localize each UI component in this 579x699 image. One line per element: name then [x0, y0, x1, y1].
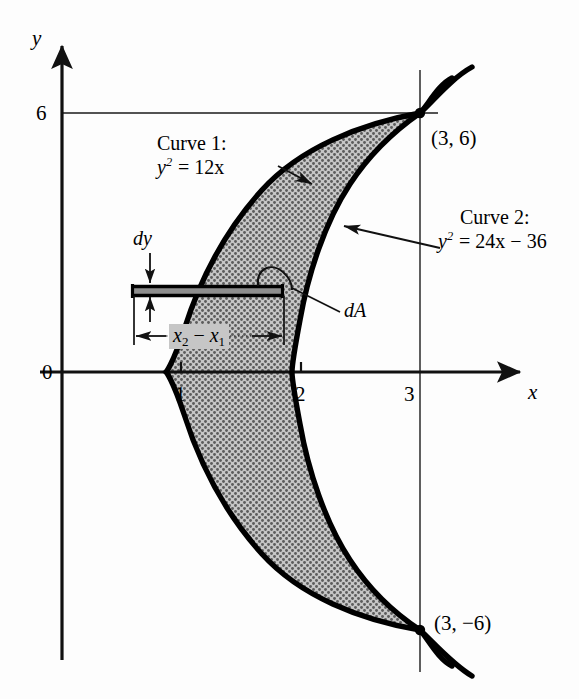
curve-2-eq-rhs: = 24x − 36: [453, 230, 547, 252]
width-label-x1-sub: 1: [219, 334, 226, 349]
curve-2-equation: y2= 24x − 36: [438, 230, 547, 251]
curve-1-equation: y2= 12x: [157, 156, 226, 177]
figure-canvas: y x 6 0 1 2 3 (3, 6) (3, −6) Curve 1: y2…: [0, 0, 579, 699]
width-label-x2-base: x: [173, 324, 182, 346]
curve-2-label-arrow: [344, 226, 440, 248]
y-tick-label-6: 6: [36, 103, 47, 124]
curve-2-label: Curve 2: y2= 24x − 36: [438, 207, 547, 251]
diagram-svg: [0, 0, 579, 699]
intersection-point-bottom: [415, 625, 425, 635]
x-axis-label: x: [528, 382, 537, 403]
intersection-point-top: [415, 108, 425, 118]
dy-label: dy: [133, 228, 152, 248]
curve-1-eq-lhs: y: [157, 156, 166, 178]
x-tick-label-3: 3: [404, 384, 415, 405]
curve-2-name: Curve 2:: [460, 207, 529, 227]
x-tick-label-2: 2: [295, 384, 306, 405]
curve-1-label: Curve 1: y2= 12x: [157, 133, 226, 177]
width-label-x1-base: x: [210, 324, 219, 346]
y-axis-label: y: [32, 28, 41, 49]
origin-label: 0: [42, 362, 53, 383]
curve-1-eq-rhs: = 12x: [172, 156, 224, 178]
intersection-label-top: (3, 6): [431, 128, 477, 149]
dA-label: dA: [344, 300, 366, 320]
curve-1-name: Curve 1:: [157, 132, 226, 154]
x-tick-label-1: 1: [175, 384, 186, 405]
intersection-label-bottom: (3, −6): [434, 613, 491, 634]
differential-strip: [132, 284, 283, 298]
width-label-minus: −: [188, 324, 209, 346]
curve-2-eq-lhs: y: [438, 230, 447, 252]
width-label: x2−x1: [169, 324, 229, 349]
